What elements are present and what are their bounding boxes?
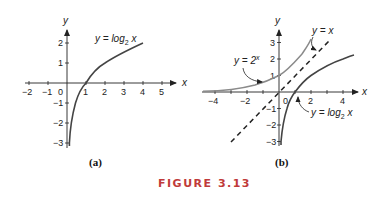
svg-text:1: 1 xyxy=(58,58,63,68)
identity-label: y = x xyxy=(311,25,334,36)
exp-curve-label: y = 2x xyxy=(233,54,260,66)
svg-text:−2: −2 xyxy=(266,120,276,130)
svg-text:2: 2 xyxy=(308,96,313,106)
log2-curve-label: y = log2 x xyxy=(94,33,137,46)
svg-text:4: 4 xyxy=(140,87,145,97)
svg-text:2: 2 xyxy=(270,54,275,64)
identity-leader-arrow xyxy=(312,37,316,50)
svg-text:−2: −2 xyxy=(240,96,250,106)
y-axis-label: y xyxy=(62,15,69,26)
svg-text:−2: −2 xyxy=(22,87,32,97)
log2-curve-label: y = log2 x xyxy=(310,107,353,120)
svg-text:−3: −3 xyxy=(53,138,63,148)
svg-text:0: 0 xyxy=(283,96,288,106)
svg-text:5: 5 xyxy=(159,87,164,97)
svg-text:4: 4 xyxy=(340,96,345,106)
panel-a-label: (a) xyxy=(89,156,102,169)
svg-text:−1: −1 xyxy=(42,87,52,97)
svg-text:−1: −1 xyxy=(266,104,276,114)
panel-b: x y −4 −2 0 2 4 3 2 1 −1 −2 −3 y = 2x xyxy=(202,15,368,169)
svg-text:3: 3 xyxy=(121,87,126,97)
figure-caption: FIGURE 3.13 xyxy=(158,177,251,190)
svg-text:−1: −1 xyxy=(53,98,63,108)
svg-text:2: 2 xyxy=(58,38,63,48)
y-axis-label: y xyxy=(274,15,281,26)
exp-leader-arrow xyxy=(243,68,262,82)
figure-canvas: x y −2 −1 0 1 2 3 4 5 2 1 −1 −2 −3 y = l… xyxy=(0,0,383,199)
svg-text:0: 0 xyxy=(58,87,63,97)
x-axis-label: x xyxy=(181,77,188,88)
svg-text:3: 3 xyxy=(270,38,275,48)
svg-text:−3: −3 xyxy=(266,137,276,147)
svg-text:1: 1 xyxy=(83,87,88,97)
x-axis-label: x xyxy=(361,86,368,97)
svg-text:−4: −4 xyxy=(208,96,218,106)
panel-a: x y −2 −1 0 1 2 3 4 5 2 1 −1 −2 −3 y = l… xyxy=(22,15,188,169)
exp-curve xyxy=(203,39,311,91)
svg-text:−2: −2 xyxy=(53,118,63,128)
panel-b-label: (b) xyxy=(275,156,289,169)
svg-text:2: 2 xyxy=(102,87,107,97)
